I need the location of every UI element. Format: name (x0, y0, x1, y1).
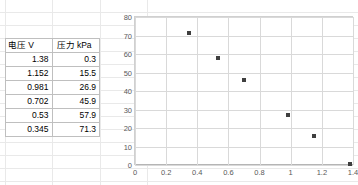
y-axis-tick-label: 20 (110, 124, 132, 133)
cell-pressure[interactable]: 0.3 (52, 53, 99, 67)
x-axis-tick-label: 0 (133, 168, 137, 177)
x-gridline (166, 17, 167, 165)
scatter-point[interactable] (242, 78, 246, 82)
voltage-pressure-table[interactable]: 电压 V 压力 kPa 1.380.31.15215.50.98126.90.7… (5, 38, 100, 137)
cell-voltage[interactable]: 1.38 (6, 53, 53, 67)
column-header-voltage: 电压 V (6, 39, 53, 53)
y-axis-tick-label: 80 (110, 13, 132, 22)
y-axis-tick-label: 10 (110, 142, 132, 151)
cell-voltage[interactable]: 0.53 (6, 109, 53, 123)
sheet-column-divider (100, 0, 101, 185)
scatter-point[interactable] (187, 31, 191, 35)
table-row[interactable]: 0.98126.9 (6, 81, 100, 95)
y-axis-tick-label: 40 (110, 87, 132, 96)
cell-voltage[interactable]: 0.345 (6, 123, 53, 137)
x-axis-tick-label: 1 (289, 168, 293, 177)
y-gridline (135, 165, 353, 166)
x-gridline (322, 17, 323, 165)
scatter-point[interactable] (286, 113, 290, 117)
table-row[interactable]: 0.70245.9 (6, 95, 100, 109)
table-row[interactable]: 0.34571.3 (6, 123, 100, 137)
x-axis-tick-label: 0.8 (254, 168, 264, 177)
x-axis-tick-label: 1.4 (348, 168, 358, 177)
cell-voltage[interactable]: 0.702 (6, 95, 53, 109)
x-gridline (197, 17, 198, 165)
scatter-point[interactable] (348, 162, 352, 166)
y-gridline (135, 73, 353, 74)
cell-pressure[interactable]: 71.3 (52, 123, 99, 137)
x-axis-tick-label: 0.2 (161, 168, 171, 177)
x-gridline (260, 17, 261, 165)
y-axis-tick-label: 50 (110, 68, 132, 77)
y-gridline (135, 91, 353, 92)
scatter-point[interactable] (312, 134, 316, 138)
x-gridline (353, 17, 354, 165)
y-axis-tick-label: 60 (110, 50, 132, 59)
y-axis-tick-label: 70 (110, 31, 132, 40)
scatter-point[interactable] (216, 56, 220, 60)
cell-pressure[interactable]: 26.9 (52, 81, 99, 95)
plot-area: 0102030405060708000.20.40.60.811.21.4 (134, 16, 353, 165)
table-row[interactable]: 1.380.3 (6, 53, 100, 67)
cell-pressure[interactable]: 15.5 (52, 67, 99, 81)
cell-pressure[interactable]: 45.9 (52, 95, 99, 109)
column-header-pressure: 压力 kPa (52, 39, 99, 53)
x-gridline (135, 17, 136, 165)
y-axis-tick-label: 0 (110, 161, 132, 170)
table-row[interactable]: 0.5357.9 (6, 109, 100, 123)
x-axis-tick-label: 0.4 (192, 168, 202, 177)
y-gridline (135, 110, 353, 111)
cell-voltage[interactable]: 1.152 (6, 67, 53, 81)
cell-voltage[interactable]: 0.981 (6, 81, 53, 95)
y-axis-tick-label: 30 (110, 105, 132, 114)
y-gridline (135, 147, 353, 148)
y-gridline (135, 128, 353, 129)
x-axis-tick-label: 0.6 (223, 168, 233, 177)
table-body: 1.380.31.15215.50.98126.90.70245.90.5357… (6, 53, 100, 137)
x-gridline (291, 17, 292, 165)
scatter-chart[interactable]: 0102030405060708000.20.40.60.811.21.4 (108, 4, 356, 182)
cell-pressure[interactable]: 57.9 (52, 109, 99, 123)
y-gridline (135, 17, 353, 18)
x-axis-tick-label: 1.2 (317, 168, 327, 177)
y-gridline (135, 36, 353, 37)
x-gridline (228, 17, 229, 165)
table-header-row: 电压 V 压力 kPa (6, 39, 100, 53)
y-gridline (135, 54, 353, 55)
table-row[interactable]: 1.15215.5 (6, 67, 100, 81)
